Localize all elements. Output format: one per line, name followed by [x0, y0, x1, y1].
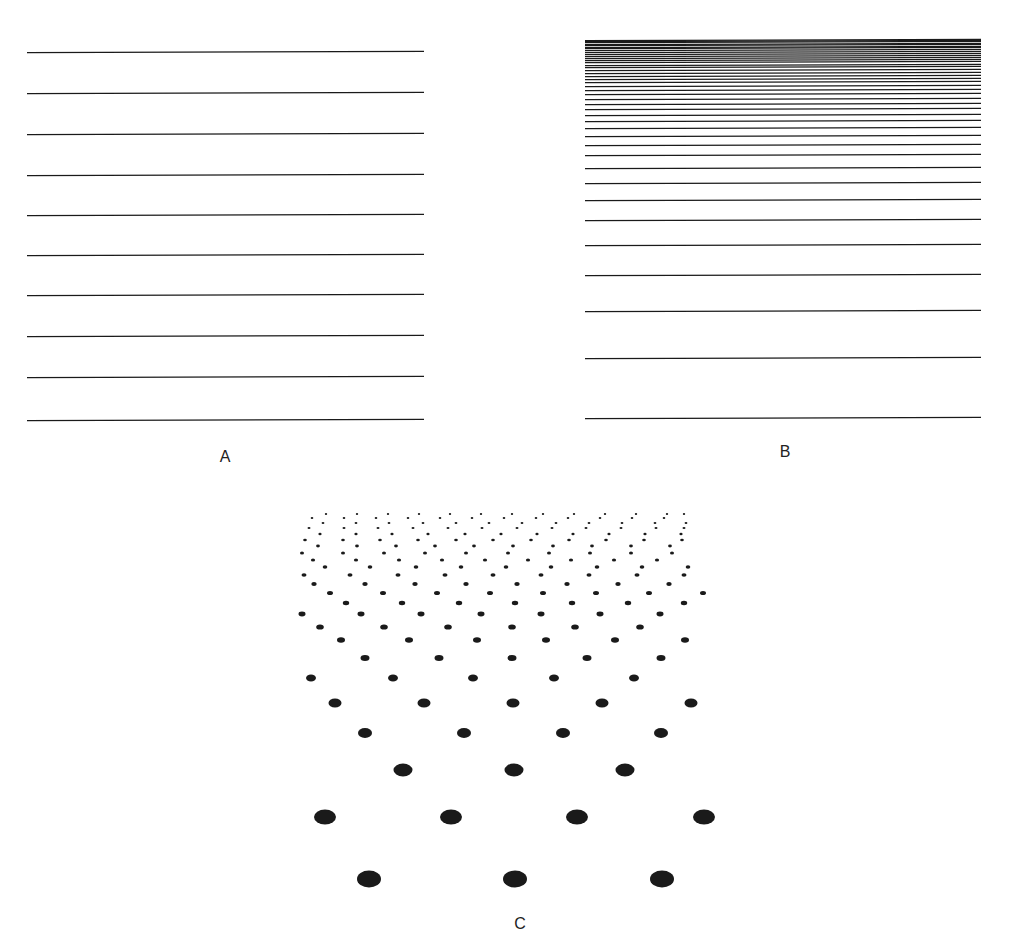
lattice-dot	[483, 558, 487, 561]
lattice-dot	[685, 699, 698, 708]
lattice-dot	[388, 675, 398, 682]
lattice-dot	[681, 637, 689, 643]
lattice-dot	[526, 558, 530, 561]
lattice-dot	[700, 591, 706, 595]
lattice-dot	[569, 601, 575, 605]
lattice-dot	[654, 522, 657, 524]
lattice-dot	[547, 552, 551, 555]
lattice-dot	[412, 582, 417, 586]
lattice-dot	[654, 728, 668, 738]
lattice-dot	[480, 513, 482, 515]
lattice-dot	[588, 522, 591, 524]
lattice-dot	[604, 539, 608, 542]
lattice-dot	[375, 517, 378, 519]
lattice-dot	[593, 591, 599, 595]
lattice-dot	[491, 573, 496, 577]
lattice-dot	[433, 545, 437, 548]
lattice-dot	[426, 533, 429, 535]
lattice-dot	[499, 533, 502, 535]
lattice-dot	[529, 539, 533, 542]
lattice-dot	[316, 545, 320, 548]
lattice-dot	[621, 522, 624, 524]
lattice-dot	[423, 552, 427, 555]
panel-c-label: C	[500, 915, 540, 933]
lattice-dot	[650, 871, 674, 888]
lattice-dot	[612, 558, 616, 561]
lattice-dot	[300, 552, 304, 555]
lattice-dot	[358, 612, 365, 617]
lattice-dot	[380, 591, 386, 595]
lattice-dot	[405, 637, 413, 643]
lattice-dot	[657, 612, 664, 617]
lattice-dot	[680, 539, 684, 542]
lattice-dot	[620, 527, 623, 529]
lattice-dot	[636, 624, 644, 629]
lattice-dot	[511, 513, 513, 515]
lattice-dot	[299, 612, 306, 617]
lattice-dot	[615, 582, 620, 586]
lattice-dot	[549, 565, 554, 568]
lattice-dot	[399, 601, 405, 605]
lattice-dot	[343, 517, 346, 519]
lattice-dot	[616, 764, 635, 777]
lattice-dot	[655, 527, 658, 529]
lattice-dot	[508, 624, 516, 629]
lattice-dot	[512, 601, 518, 605]
lattice-dot	[343, 527, 346, 529]
lattice-dot	[418, 699, 431, 708]
lattice-dot	[394, 545, 398, 548]
lattice-dot	[440, 558, 444, 561]
lattice-dot	[308, 527, 311, 529]
lattice-dot	[595, 565, 600, 568]
lattice-dot	[542, 513, 544, 515]
lattice-dot	[314, 810, 336, 825]
lattice-dot	[341, 539, 345, 542]
lattice-dot	[397, 558, 401, 561]
lattice-dot	[306, 675, 316, 682]
lattice-dot	[435, 655, 444, 661]
lattice-dot	[588, 552, 592, 555]
lattice-dot	[440, 810, 462, 825]
lattice-dot	[464, 552, 468, 555]
lattice-dot	[380, 624, 388, 629]
lattice-dot	[412, 527, 415, 529]
lattice-dot	[666, 582, 671, 586]
lattice-dot	[629, 545, 633, 548]
lattice-dot	[573, 513, 575, 515]
lattice-dot	[506, 552, 510, 555]
lattice-dot	[318, 533, 321, 535]
lattice-dot	[507, 699, 520, 708]
lattice-dot	[382, 552, 386, 555]
lattice-dot	[566, 810, 588, 825]
lattice-dot	[590, 545, 594, 548]
lattice-dot	[454, 539, 458, 542]
lattice-dot	[508, 655, 517, 661]
lattice-dot	[607, 533, 610, 535]
panel-c-dots-graphic	[0, 0, 1014, 942]
lattice-dot	[599, 517, 602, 519]
lattice-dot	[555, 522, 558, 524]
lattice-dot	[434, 591, 440, 595]
lattice-dot	[655, 558, 659, 561]
lattice-dot	[388, 522, 391, 524]
lattice-dot	[685, 522, 688, 524]
lattice-dot	[569, 558, 573, 561]
lattice-dot	[341, 552, 345, 555]
lattice-dot	[416, 539, 420, 542]
lattice-dot	[443, 573, 448, 577]
lattice-dot	[642, 539, 646, 542]
lattice-dot	[686, 565, 691, 568]
lattice-dot	[327, 591, 333, 595]
lattice-dot	[504, 565, 509, 568]
lattice-dot	[323, 565, 328, 568]
lattice-dot	[354, 558, 358, 561]
panel-c-dot-lattice	[0, 0, 1014, 942]
lattice-dot	[387, 513, 389, 515]
lattice-dot	[418, 612, 425, 617]
lattice-dot	[564, 582, 569, 586]
lattice-dot	[668, 545, 672, 548]
lattice-dot	[535, 517, 538, 519]
lattice-dot	[362, 582, 367, 586]
lattice-dot	[643, 533, 646, 535]
lattice-dot	[682, 573, 687, 577]
